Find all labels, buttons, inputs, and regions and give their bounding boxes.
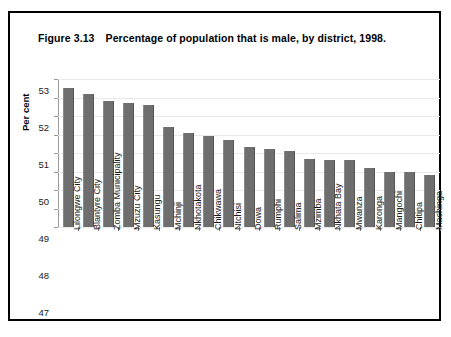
x-tick-label: Mzimba xyxy=(313,198,323,230)
x-tick-label: Mwanza xyxy=(354,196,364,230)
x-tick-label: Karonga xyxy=(374,196,384,230)
y-tick-label: 47 xyxy=(38,307,49,318)
figure-frame: Figure 3.13Percentage of population that… xyxy=(8,11,441,321)
y-tick-label: 48 xyxy=(38,270,49,281)
y-axis-title: Per cent xyxy=(20,94,31,132)
x-tick-label: Rumphi xyxy=(273,199,283,230)
x-tick-label: Mzuzu City xyxy=(132,185,142,230)
x-tick-label: Zomba Municipality xyxy=(112,152,122,230)
x-axis-labels: Lilongwe CityBlantyre CityZomba Municipa… xyxy=(58,230,440,325)
x-tick-label: Nkhotakota xyxy=(193,184,203,230)
x-tick-label: Chitipa xyxy=(414,202,424,230)
x-tick-label: Kasungu xyxy=(152,194,162,230)
x-tick-label: Dowa xyxy=(253,207,263,230)
y-tick-label: 52 xyxy=(38,122,49,133)
figure-title: Figure 3.13Percentage of population that… xyxy=(38,32,386,44)
figure-number: Figure 3.13 xyxy=(38,32,95,44)
y-tick-label: 51 xyxy=(38,159,49,170)
y-tick-label: 49 xyxy=(38,233,49,244)
y-tick-label: 50 xyxy=(38,196,49,207)
x-tick-label: Mchinji xyxy=(173,202,183,230)
y-tick-mark: 45 xyxy=(54,227,58,228)
figure-title-text: Percentage of population that is male, b… xyxy=(106,32,387,44)
y-tick-label: 53 xyxy=(38,85,49,96)
x-tick-label: Nkhata Bay xyxy=(333,183,343,230)
x-tick-label: Lilongwe City xyxy=(72,176,82,230)
x-tick-label: Machinga xyxy=(434,191,444,230)
x-tick-label: Ntchisi xyxy=(233,203,243,230)
x-tick-label: Salima xyxy=(293,202,303,230)
x-tick-label: Mangochi xyxy=(394,191,404,230)
x-tick-label: Chikwawa xyxy=(213,189,223,230)
x-tick-label: Blantyre City xyxy=(92,179,102,230)
